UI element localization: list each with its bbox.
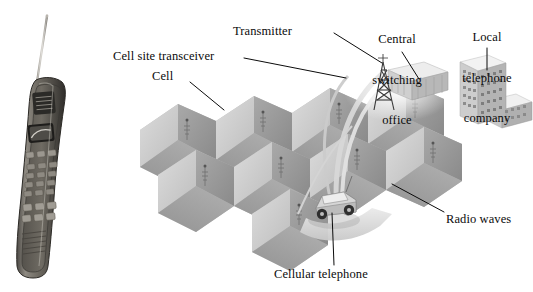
label-central-switching-office-line1: Central: [356, 33, 438, 47]
label-local-telephone-company-line1: Local: [445, 31, 529, 45]
label-cell: Cell: [152, 70, 173, 84]
handset-antenna: [37, 14, 48, 82]
cellular-handset: [17, 14, 66, 278]
leader-cell-site-transceiver: [244, 58, 346, 78]
label-transmitter: Transmitter: [233, 25, 292, 39]
label-central-switching-office-line2: switching: [356, 74, 438, 88]
figure-canvas: Cell site transceiver Cell Transmitter C…: [0, 0, 533, 292]
label-central-switching-office: Central switching office: [356, 6, 438, 155]
label-radio-waves: Radio waves: [446, 213, 511, 227]
label-local-telephone-company: Local telephone company: [445, 4, 529, 153]
label-central-switching-office-line3: office: [356, 114, 438, 128]
label-cellular-telephone: Cellular telephone: [274, 268, 368, 282]
label-cell-site-transceiver: Cell site transceiver: [113, 50, 214, 64]
label-local-telephone-company-line3: company: [445, 112, 529, 126]
leader-cell: [190, 82, 224, 110]
label-local-telephone-company-line2: telephone: [445, 72, 529, 86]
